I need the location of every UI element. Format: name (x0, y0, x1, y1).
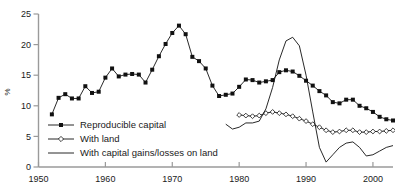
data-point-marker (237, 113, 242, 118)
legend-item-3: With capital gains/losses on land (48, 147, 218, 158)
y-tick-label: 15 (21, 70, 31, 80)
data-point-marker (317, 89, 321, 93)
data-point-marker (204, 66, 208, 70)
y-axis-group: 0510152025 % (3, 9, 39, 172)
data-point-marker (144, 81, 148, 85)
data-point-marker (184, 32, 188, 36)
data-point-marker (177, 24, 181, 28)
data-point-marker (284, 68, 288, 72)
data-point-marker (230, 92, 234, 96)
data-point-marker (70, 96, 74, 100)
legend-item-1: Reproducible capital (48, 119, 166, 130)
data-point-marker (243, 113, 248, 118)
data-point-marker (364, 106, 368, 110)
data-point-marker (317, 125, 322, 130)
data-point-marker (110, 66, 114, 70)
data-point-marker (371, 110, 375, 114)
data-point-marker (170, 31, 174, 35)
data-point-marker (157, 54, 161, 58)
y-tick-label: 20 (21, 40, 31, 50)
data-point-marker (331, 100, 335, 104)
data-point-marker (270, 110, 275, 115)
y-tick-marks (34, 14, 39, 167)
data-point-marker (257, 81, 261, 85)
data-point-marker (344, 98, 348, 102)
data-point-marker (350, 128, 355, 133)
data-point-marker (83, 84, 87, 88)
data-point-marker (97, 90, 101, 94)
legend-item-2: With land (48, 133, 120, 144)
chart-legend: Reproducible capitalWith landWith capita… (48, 119, 218, 158)
series-3 (226, 37, 393, 162)
data-point-marker (391, 118, 395, 122)
y-tick-labels: 0510152025 (21, 9, 31, 172)
data-point-marker (371, 129, 376, 134)
line-chart: 0510152025 % 195019601970198019902000 Re… (0, 0, 395, 192)
x-tick-label: 1980 (229, 174, 249, 184)
data-point-marker (150, 68, 154, 72)
series-path (52, 26, 393, 121)
data-point-marker (297, 116, 302, 121)
data-point-marker (164, 42, 168, 46)
chart-container: 0510152025 % 195019601970198019902000 Re… (0, 0, 395, 192)
data-point-marker (384, 117, 388, 121)
series-path (226, 37, 393, 162)
y-tick-label: 25 (21, 9, 31, 19)
data-point-marker (391, 128, 395, 133)
data-point-marker (277, 111, 282, 116)
data-point-marker (137, 73, 141, 77)
data-point-marker (250, 114, 255, 119)
x-tick-label: 2000 (363, 174, 383, 184)
data-point-marker (311, 84, 315, 88)
data-point-marker (217, 94, 221, 98)
data-point-marker (190, 55, 194, 59)
data-point-marker (90, 91, 94, 95)
data-point-marker (297, 74, 301, 78)
data-point-marker (351, 98, 355, 102)
data-point-marker (197, 59, 201, 63)
data-point-marker (264, 79, 268, 83)
data-point-marker (224, 93, 228, 97)
data-point-marker (330, 130, 335, 135)
data-point-marker (324, 128, 329, 133)
series-1 (50, 24, 395, 123)
data-point-marker (63, 92, 67, 96)
data-point-marker (237, 85, 241, 89)
data-point-marker (284, 112, 289, 117)
data-point-marker (324, 93, 328, 97)
x-tick-label: 1970 (162, 174, 182, 184)
x-axis-group: 195019601970198019902000 (28, 162, 393, 184)
data-point-marker (377, 129, 382, 134)
legend-swatch-diamond-icon (58, 136, 63, 141)
data-point-marker (277, 70, 281, 74)
data-point-marker (251, 78, 255, 82)
x-tick-label: 1950 (28, 174, 48, 184)
data-point-marker (357, 130, 362, 135)
data-point-marker (57, 96, 61, 100)
data-point-marker (337, 129, 342, 134)
data-point-marker (344, 128, 349, 133)
data-point-marker (384, 128, 389, 133)
data-point-marker (130, 72, 134, 76)
x-tick-label: 1960 (95, 174, 115, 184)
data-point-marker (304, 119, 309, 124)
x-tick-label: 1990 (296, 174, 316, 184)
data-point-marker (123, 73, 127, 77)
y-tick-label: 5 (26, 132, 31, 142)
data-point-marker (117, 74, 121, 78)
legend-swatch-square-icon (59, 123, 63, 127)
data-point-marker (77, 96, 81, 100)
data-point-marker (210, 84, 214, 88)
y-tick-label: 10 (21, 101, 31, 111)
x-tick-labels: 195019601970198019902000 (28, 174, 382, 184)
legend-label: With capital gains/losses on land (80, 147, 218, 158)
legend-label: With land (80, 133, 120, 144)
x-tick-marks (39, 162, 373, 167)
y-tick-label: 0 (26, 162, 31, 172)
data-point-marker (290, 114, 295, 119)
data-point-marker (50, 112, 54, 116)
data-point-marker (364, 130, 369, 135)
legend-label: Reproducible capital (80, 119, 166, 130)
data-point-marker (378, 115, 382, 119)
data-point-marker (358, 104, 362, 108)
